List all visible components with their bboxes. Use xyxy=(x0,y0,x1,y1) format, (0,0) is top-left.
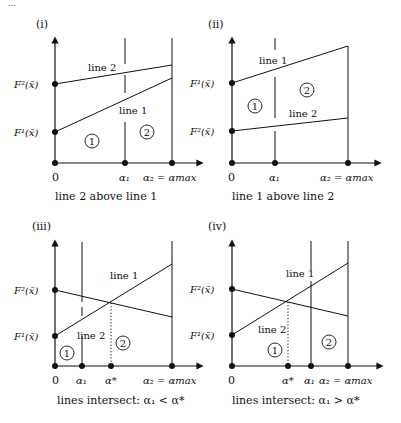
line-label-bottom: line 1 xyxy=(119,105,147,116)
x-label-origin: 0 xyxy=(228,374,235,387)
x-label-origin: 0 xyxy=(52,171,59,184)
x-label-alpha-max: α₂ = αmax xyxy=(143,375,197,386)
line-label-top: line 1 xyxy=(110,270,138,281)
line-2 xyxy=(55,290,172,317)
svg-text:2: 2 xyxy=(144,127,150,138)
svg-text:2: 2 xyxy=(304,85,310,96)
panel-label: (ii) xyxy=(208,18,224,31)
y-label-lower: F¹(x̄) xyxy=(13,331,38,342)
diagram-canvas: ... (i) line 2 line 1 F²(x̄) F¹(x̄) 1 2 … xyxy=(0,0,401,423)
y-label-lower: F¹(x̄) xyxy=(189,330,214,341)
line-2 xyxy=(232,118,348,131)
svg-text:2: 2 xyxy=(120,338,126,349)
x-label-alpha1: α₁ xyxy=(119,172,130,183)
svg-text:1: 1 xyxy=(252,101,258,112)
line-2 xyxy=(232,289,348,316)
x-label-alpha-max: α₂ = αmax xyxy=(320,172,374,183)
panel-label: (iv) xyxy=(208,220,226,233)
line-label-top: line 1 xyxy=(259,55,287,66)
panel-label: (i) xyxy=(36,18,48,31)
y-label-upper: F²(x̄) xyxy=(189,284,214,295)
svg-text:1: 1 xyxy=(272,345,278,356)
x-label-alpha1: α₁ xyxy=(76,375,87,386)
y-label-upper: F²(x̄) xyxy=(13,285,38,296)
x-label-alpha1: α₁ xyxy=(269,172,280,183)
line-label-top: line 1 xyxy=(286,268,314,279)
svg-text:1: 1 xyxy=(89,136,95,147)
y-label-lower: F²(x̄) xyxy=(189,126,214,137)
y-label-upper: F²(x̄) xyxy=(13,79,38,90)
x-label-origin: 0 xyxy=(52,374,59,387)
line-label-bottom: line 2 xyxy=(77,330,105,341)
x-label-alpha-max: α₂ = αmax xyxy=(143,172,197,183)
line-1 xyxy=(55,78,172,132)
panel-label: (iii) xyxy=(32,220,51,233)
x-label-alpha-star: α* xyxy=(282,375,294,386)
line-1 xyxy=(232,46,348,83)
panel-iii: (iii) line 1 line 2 F²(x̄) F¹(x̄) 1 2 0 … xyxy=(13,220,200,407)
svg-text:2: 2 xyxy=(326,337,332,348)
x-label-alpha-max: α₂ = αmax xyxy=(319,375,373,386)
line-label-bottom: line 2 xyxy=(289,108,317,119)
x-label-origin: 0 xyxy=(228,171,235,184)
panel-caption: lines intersect: α₁ > α* xyxy=(232,394,360,407)
panel-i: (i) line 2 line 1 F²(x̄) F¹(x̄) 1 2 0 α₁… xyxy=(13,18,200,203)
header-fragment: ... xyxy=(8,0,16,8)
panel-caption: lines intersect: α₁ < α* xyxy=(57,394,185,407)
line-label-top: line 2 xyxy=(88,62,116,73)
line-label-bottom: line 2 xyxy=(258,324,286,335)
panel-ii: (ii) line 1 line 2 F¹(x̄) F²(x̄) 1 2 0 α… xyxy=(189,18,378,203)
y-label-upper: F¹(x̄) xyxy=(189,78,214,89)
x-label-alpha1: α₁ xyxy=(304,375,315,386)
panel-caption: line 1 above line 2 xyxy=(232,190,334,203)
y-label-lower: F¹(x̄) xyxy=(13,127,38,138)
svg-text:1: 1 xyxy=(64,348,70,359)
x-label-alpha-star: α* xyxy=(105,375,117,386)
panel-caption: line 2 above line 1 xyxy=(55,190,157,203)
panel-iv: (iv) line 1 line 2 F²(x̄) F¹(x̄) 1 2 0 α… xyxy=(189,220,380,407)
